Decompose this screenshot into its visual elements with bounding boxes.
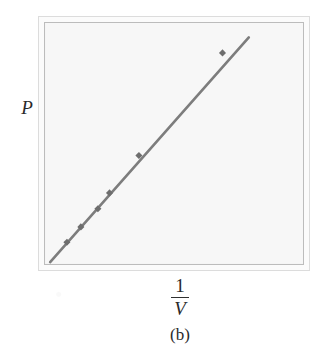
x-axis-label: 1 V — [152, 276, 208, 319]
data-point-marker — [219, 49, 226, 56]
fraction-one-over-v: 1 V — [170, 276, 190, 319]
panel-caption: (b) — [150, 325, 210, 345]
data-point-markers — [63, 49, 226, 246]
fraction-denominator: V — [170, 298, 190, 319]
y-axis-label: P — [14, 96, 40, 120]
fraction-numerator: 1 — [170, 276, 190, 297]
figure-panel-b: P 1 V (b) — [0, 0, 326, 359]
